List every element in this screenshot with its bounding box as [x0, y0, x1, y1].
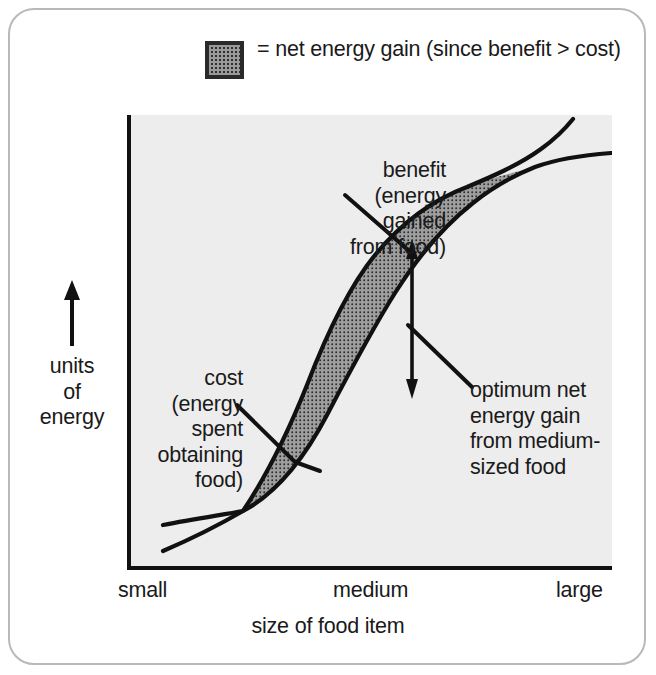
x-tick-large: large: [556, 578, 603, 603]
y-axis-label-group: units of energy: [22, 278, 122, 431]
cost-leader-tick: [295, 462, 320, 471]
legend: = net energy gain (since benefit > cost): [205, 36, 621, 79]
benefit-annotation-label: benefit (energy gained from food): [266, 158, 446, 260]
x-tick-medium: medium: [333, 578, 408, 603]
x-axis-title: size of food item: [0, 614, 656, 639]
y-axis-title: units of energy: [22, 354, 122, 431]
up-arrow-icon: [58, 278, 86, 348]
stippled-square-swatch-icon: [205, 41, 244, 79]
optimum-leader-line: [408, 325, 472, 387]
figure-stage: = net energy gain (since benefit > cost): [0, 0, 656, 675]
optimum-annotation-label: optimum net energy gain from medium- siz…: [470, 378, 645, 480]
cost-annotation-label: cost (energy spent obtaining food): [118, 366, 243, 494]
x-tick-small: small: [118, 578, 167, 603]
legend-label: = net energy gain (since benefit > cost): [257, 36, 621, 62]
